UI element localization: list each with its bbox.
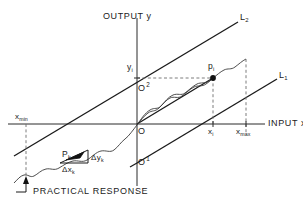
linearity-diagram-figure: OUTPUT y INPUT x L2 L1 O2 O1 O yi pi xi … — [0, 0, 303, 202]
x-axis-title: INPUT x — [268, 119, 303, 128]
delta-label-dx-k-base: Δx — [62, 165, 72, 174]
line-label-l1: L1 — [279, 71, 288, 80]
point-label-p-k-sub: k — [68, 154, 71, 160]
delta-label-dy-k-sub: k — [101, 157, 104, 163]
delta-label-dx-k: Δxk — [62, 166, 75, 174]
tick-label-x-min: xmin — [15, 113, 28, 121]
data-point-p-i — [210, 75, 216, 81]
y-axis-title: OUTPUT y — [103, 12, 152, 21]
line-label-l2: L2 — [240, 13, 249, 22]
tolerance-line-lower-l1-extension — [130, 163, 137, 167]
intercept-label-o2: O2 — [138, 84, 149, 93]
delta-label-dx-k-sub: k — [72, 169, 75, 175]
tolerance-line-lower-l1 — [137, 79, 277, 163]
intercept-label-o1-base: O — [138, 157, 145, 167]
caption-practical-response: PRACTICAL RESPONSE — [33, 187, 148, 196]
tick-label-x-min-sub: min — [19, 116, 28, 122]
value-label-y-i-sub: i — [132, 67, 133, 73]
practical-response-upper-tail — [213, 59, 246, 78]
tick-label-x-max-sub: max — [240, 131, 250, 137]
point-label-p-k: Pk — [62, 150, 71, 159]
point-label-p-i: pi — [208, 62, 214, 71]
delta-label-dy-k: Δyk — [91, 154, 104, 162]
intercept-label-o2-base: O — [138, 83, 145, 93]
value-label-y-i: yi — [127, 63, 133, 72]
line-label-l1-sub: 1 — [284, 75, 287, 81]
value-label-y-i-base: y — [127, 62, 132, 72]
tolerance-line-upper-l2 — [14, 22, 238, 156]
intercept-label-o1: O1 — [138, 158, 149, 167]
caption-leader-arrowhead — [23, 176, 29, 184]
origin-label-o: O — [138, 127, 145, 136]
tick-label-x-i: xi — [208, 128, 213, 136]
intercept-label-o2-sup: 2 — [146, 81, 150, 88]
tick-label-x-max: xmax — [236, 128, 250, 136]
diagram-canvas — [0, 0, 303, 202]
delta-label-dy-k-base: Δy — [91, 153, 101, 162]
line-label-l2-sub: 2 — [245, 17, 248, 23]
intercept-label-o1-sup: 1 — [146, 155, 150, 162]
